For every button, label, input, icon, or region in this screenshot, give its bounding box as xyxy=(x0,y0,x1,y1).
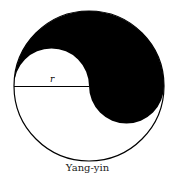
figure-caption: Yang-yin xyxy=(0,162,175,173)
radius-label: r xyxy=(50,74,55,84)
yin-region xyxy=(14,11,164,124)
yang-yin-diagram: r xyxy=(0,0,175,178)
